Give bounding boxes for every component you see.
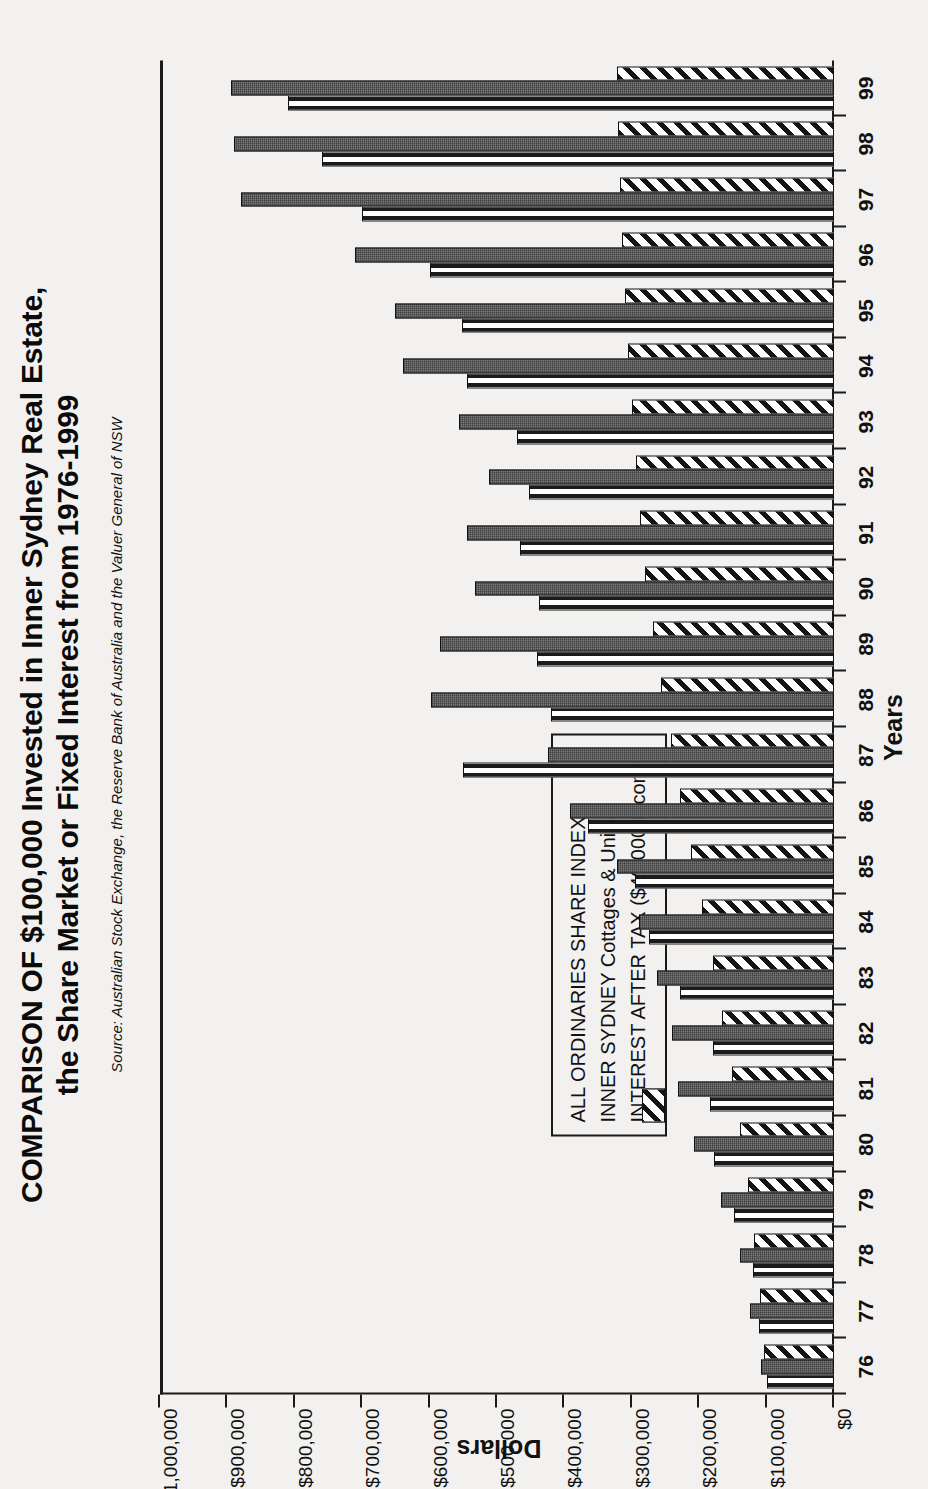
bar-all-97 (362, 206, 834, 221)
plot-area: $0$100,000$200,000$300,000$400,000$500,0… (160, 60, 834, 1394)
value-axis-tick (293, 1394, 295, 1407)
bar-inner-76 (761, 1359, 834, 1374)
category-axis-tick (834, 1170, 846, 1172)
bar-inner-81 (678, 1081, 834, 1096)
bar-inner-89 (440, 636, 834, 651)
bar-interest-90 (645, 566, 834, 581)
category-axis-tick-label: 91 (854, 521, 878, 544)
category-axis-tick-label: 84 (854, 910, 878, 933)
value-axis-title: Dollars (456, 1433, 541, 1462)
bar-interest-96 (622, 232, 834, 247)
bar-interest-99 (617, 66, 834, 81)
bar-interest-87 (671, 733, 834, 748)
category-axis-tick (834, 1114, 846, 1116)
bar-inner-77 (750, 1303, 834, 1318)
category-axis-tick (834, 280, 846, 282)
bar-all-89 (537, 651, 834, 666)
legend-item: ALL ORDINARIES SHARE INDEX (563, 749, 593, 1122)
category-axis-tick-label: 77 (854, 1299, 878, 1322)
category-axis-tick-label: 93 (854, 410, 878, 433)
category-axis-tick (834, 558, 846, 560)
bar-inner-95 (395, 303, 834, 318)
value-axis-tick (562, 1394, 564, 1407)
bar-all-98 (322, 151, 834, 166)
bar-inner-99 (231, 80, 834, 95)
category-axis-tick (834, 169, 846, 171)
bar-interest-76 (764, 1344, 834, 1359)
bar-all-90 (539, 595, 834, 610)
diagonal-hatch-swatch-icon (642, 1088, 665, 1122)
bar-all-80 (714, 1151, 834, 1166)
category-axis-tick (834, 725, 846, 727)
bar-interest-83 (713, 955, 834, 970)
category-axis-tick (834, 114, 846, 116)
bar-all-84 (649, 929, 834, 944)
bar-inner-80 (694, 1136, 834, 1151)
legend-item-label: INNER SYDNEY Cottages & Units (597, 817, 620, 1122)
category-axis-tick (834, 1059, 846, 1061)
bar-interest-84 (702, 899, 834, 914)
bar-inner-84 (639, 914, 834, 929)
value-axis-tick (428, 1394, 430, 1407)
category-axis-tick (834, 1003, 846, 1005)
bar-inner-90 (475, 581, 834, 596)
bar-inner-93 (459, 414, 834, 429)
bar-all-88 (551, 707, 834, 722)
legend-item: INTEREST AFTER TAX ($40,000 Income) (623, 749, 653, 1122)
bar-inner-79 (721, 1192, 834, 1207)
bar-interest-89 (653, 621, 834, 636)
bar-interest-81 (732, 1066, 834, 1081)
bar-inner-98 (234, 136, 834, 151)
bars-layer (160, 60, 834, 1394)
category-axis-tick-label: 89 (854, 632, 878, 655)
bar-all-92 (529, 484, 834, 499)
bar-interest-79 (748, 1177, 834, 1192)
value-axis-tick (158, 1394, 160, 1407)
category-axis-tick-label: 87 (854, 743, 878, 766)
category-axis-tick-label: 76 (854, 1355, 878, 1378)
category-axis-tick (834, 1336, 846, 1338)
bar-all-76 (767, 1374, 834, 1389)
bar-all-79 (734, 1207, 834, 1222)
bar-interest-86 (680, 788, 834, 803)
category-axis-tick-label: 96 (854, 243, 878, 266)
bar-interest-94 (628, 344, 834, 359)
bar-inner-82 (672, 1025, 834, 1040)
bar-all-83 (680, 985, 834, 1000)
bar-inner-78 (740, 1248, 834, 1263)
bar-inner-91 (467, 525, 834, 540)
category-axis-tick (834, 503, 846, 505)
bar-all-81 (710, 1096, 834, 1111)
bar-interest-93 (632, 399, 834, 414)
bar-all-77 (759, 1318, 834, 1333)
bar-interest-82 (722, 1011, 834, 1026)
category-axis-ticks: 7677787980818283848586878889909192939495… (160, 60, 834, 1394)
bar-all-99 (288, 95, 834, 110)
bar-all-82 (713, 1040, 834, 1055)
chart-canvas: COMPARISON OF $100,000 Invested in Inner… (0, 0, 928, 1489)
category-axis-tick (834, 947, 846, 949)
bar-interest-78 (754, 1233, 834, 1248)
category-axis-tick-label: 94 (854, 354, 878, 377)
bar-interest-91 (640, 510, 834, 525)
category-axis-tick-label: 81 (854, 1077, 878, 1100)
category-axis-tick (834, 614, 846, 616)
bar-interest-88 (661, 677, 834, 692)
category-axis-tick (834, 447, 846, 449)
category-axis-title: Years (879, 60, 908, 1394)
chart-legend: ALL ORDINARIES SHARE INDEX INNER SYDNEY … (551, 733, 667, 1136)
category-axis-tick-label: 83 (854, 965, 878, 988)
category-axis-tick (834, 225, 846, 227)
category-axis-tick-label: 86 (854, 799, 878, 822)
category-axis-tick (834, 392, 846, 394)
bar-inner-83 (657, 970, 834, 985)
category-axis-tick (834, 1281, 846, 1283)
category-axis-tick-label: 97 (854, 187, 878, 210)
bar-all-93 (517, 429, 834, 444)
bar-inner-97 (241, 192, 834, 207)
title-block: COMPARISON OF $100,000 Invested in Inner… (14, 0, 86, 1489)
bar-all-96 (430, 262, 834, 277)
category-axis-tick (834, 669, 846, 671)
value-axis-tick (697, 1394, 699, 1407)
category-axis-tick-label: 90 (854, 576, 878, 599)
